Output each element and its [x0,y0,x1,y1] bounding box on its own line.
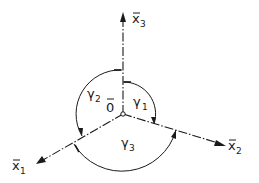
arrowhead-x2 [214,140,226,146]
label-x1: x 1 [12,158,26,176]
label-x2: x 2 [228,138,242,156]
axis-x1 [43,114,123,160]
svg-text:3: 3 [129,143,135,153]
svg-text:2: 2 [236,146,242,156]
label-x3: x 3 [132,11,146,29]
arc-gamma2-arrow [78,128,83,136]
svg-text:1: 1 [20,166,26,176]
svg-text:γ: γ [87,86,95,101]
arrowhead-x1 [36,156,46,164]
svg-text:3: 3 [140,19,146,29]
svg-text:γ: γ [133,94,141,109]
svg-text:0: 0 [106,100,114,115]
svg-text:γ: γ [121,135,129,150]
coordinate-diagram: 0 x 3 x 2 x 1 γ 1 γ 2 γ 3 [0,0,259,183]
arc-gamma3-arrow [171,130,176,139]
svg-text:1: 1 [142,102,148,112]
svg-text:2: 2 [95,94,101,104]
label-gamma1: γ 1 [133,94,148,112]
label-origin: 0 [106,99,114,115]
axis-x2 [123,114,218,143]
arrowhead-x3 [120,12,126,22]
label-gamma2: γ 2 [87,86,101,104]
arc-gamma3-start-mark [75,145,79,152]
origin-point [121,112,125,116]
label-gamma3: γ 3 [121,135,135,153]
